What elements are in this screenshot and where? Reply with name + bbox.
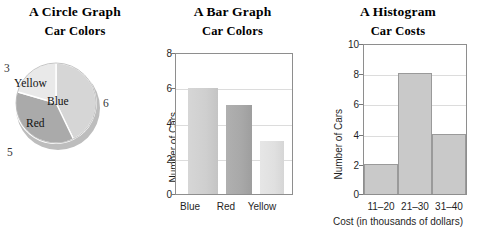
bar-xtick-yellow: Yellow [239,201,285,212]
hist-bar-11-20 [364,164,398,194]
hist-ytick-0: 0 [337,189,359,200]
bar-ytick-0: 0 [150,189,172,200]
bar-blue [188,88,218,194]
hist-bar-31-40 [432,134,466,194]
bar-ytick-2: 2 [150,154,172,165]
bar-ytick-4: 4 [150,118,172,129]
hist-ytick-10: 10 [337,39,359,50]
bar-graph-plot-area [175,53,293,195]
bar-red [226,105,252,194]
pie-count-yellow: 3 [4,62,10,74]
circle-graph-subtitle: Car Colors [0,24,150,39]
pie-count-red: 5 [7,146,13,158]
bar-ytick-8: 8 [150,48,172,59]
circle-graph-panel: A Circle Graph Car Colors Blue Red Yello… [0,0,150,233]
histogram-panel: A Histogram Car Costs Number of Cars 10 … [315,0,481,233]
histogram-title: A Histogram [315,4,481,20]
histogram-subtitle: Car Costs [315,24,481,39]
hist-ytick-8: 8 [337,69,359,80]
hist-ytick-6: 6 [337,99,359,110]
circle-graph-title: A Circle Graph [0,4,150,20]
bar-ytick-6: 6 [150,83,172,94]
hist-bar-21-30 [398,73,432,194]
hist-xtick-31-40: 31–40 [427,201,471,212]
bar-yellow [260,141,284,194]
bar-graph-subtitle: Car Colors [150,24,315,39]
pie-label-red: Red [26,117,45,129]
pie-label-blue: Blue [47,95,69,107]
pie-label-yellow: Yellow [14,77,47,89]
bar-graph-title: A Bar Graph [150,4,315,20]
pie-count-blue: 6 [103,97,109,109]
bar-graph-panel: A Bar Graph Car Colors Number of Cars 8 … [150,0,315,233]
hist-ytick-4: 4 [337,130,359,141]
histogram-x-axis-title: Cost (in thousands of dollars) [319,216,477,227]
hist-ytick-2: 2 [337,160,359,171]
histogram-plot-area [363,44,467,195]
